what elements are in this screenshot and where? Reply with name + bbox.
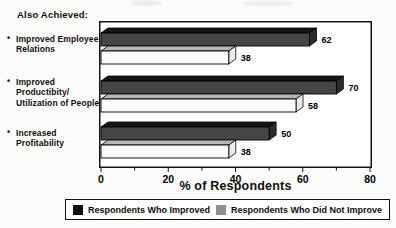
chart-page: Also Achieved: • Improved Employee Relat… (0, 0, 396, 228)
category-text: Improved Productibity/ Utilization of Pe… (16, 77, 100, 108)
category-label-productivity: • Improved Productibity/ Utilization of … (16, 77, 100, 108)
bullet-icon: • (7, 127, 10, 137)
bar-chart-plot: 623870585038020406080 (99, 21, 391, 193)
legend-swatch-did-not-improve (216, 205, 226, 215)
legend-label: Respondents Who Improved (88, 205, 210, 215)
legend-item-did-not-improve: Respondents Who Did Not Improve (216, 205, 382, 215)
category-text: Increased Profitability (16, 128, 100, 149)
x-axis-title: % of Respondents (99, 179, 372, 193)
legend-label: Respondents Who Did Not Improve (231, 205, 382, 215)
svg-text:58: 58 (308, 101, 318, 111)
svg-text:62: 62 (321, 35, 331, 45)
legend: Respondents Who Improved Respondents Who… (65, 199, 390, 220)
scan-artifact (130, 0, 162, 6)
svg-text:70: 70 (348, 83, 358, 93)
bullet-icon: • (7, 33, 10, 43)
category-text: Improved Employee Relations (16, 34, 100, 55)
category-label-profitability: • Increased Profitability (16, 128, 100, 149)
chart-title: Also Achieved: (17, 9, 88, 20)
svg-text:50: 50 (281, 129, 291, 139)
legend-swatch-improved (73, 205, 83, 215)
category-label-employee-relations: • Improved Employee Relations (16, 34, 100, 55)
svg-text:38: 38 (241, 53, 251, 63)
svg-text:38: 38 (241, 147, 251, 157)
bullet-icon: • (7, 76, 10, 86)
legend-item-improved: Respondents Who Improved (73, 205, 210, 215)
scan-artifact (243, 1, 293, 6)
